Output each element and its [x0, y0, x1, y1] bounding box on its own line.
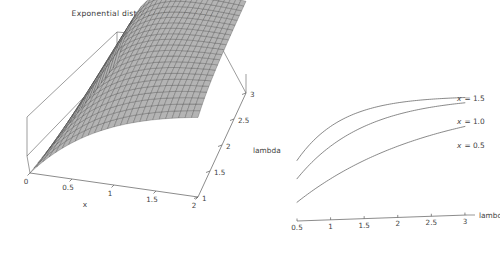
- figure-canvas: Exponential distribution: cumulative: [0, 0, 500, 263]
- surface-plot-panel: Exponential distribution: cumulative: [0, 0, 290, 263]
- x-tick-mark: [28, 173, 31, 176]
- cdf-curve-group: [297, 98, 465, 203]
- series-label-x-1-0: x= 1.0: [456, 117, 485, 126]
- cdf-tick-label: 1.5: [358, 221, 369, 230]
- series-label-x-1-5: x= 1.5: [456, 94, 485, 103]
- lambda-tick-label: 1.5: [214, 168, 225, 177]
- x-tick-label: 0: [24, 177, 29, 186]
- lambda-tick-label: 1: [202, 194, 207, 203]
- lambda-axis-label: lambda: [479, 211, 500, 220]
- cdf-tick-label: 2.5: [426, 218, 437, 227]
- x-tick-mark: [112, 185, 115, 188]
- cdf-tick-label: 0.5: [291, 223, 302, 232]
- cdf-plot-svg: x= 1.5 x= 1.0 x= 0.5 lambda 0.511.522.53: [285, 0, 500, 263]
- x-axis-ticks: 00.511.52: [24, 173, 198, 210]
- cdf-axis-ticks: 0.511.522.53: [291, 213, 467, 232]
- x-axis-label: x: [83, 200, 88, 209]
- lambda-axis-label: lambda: [253, 146, 281, 155]
- lambda-tick-label: 2.5: [238, 116, 249, 125]
- surface-mesh: [30, 0, 246, 173]
- cdf-lambda-axis: [297, 215, 475, 221]
- lambda-tick-label: 2: [226, 142, 231, 151]
- series-label-x-0-5: x= 0.5: [456, 141, 485, 150]
- x-tick-label: 1: [108, 189, 113, 198]
- x-tick-mark: [154, 191, 157, 194]
- lambda-axis-line: [297, 215, 467, 221]
- cdf-tick-label: 2: [395, 219, 400, 228]
- cdf-plot-panel: x= 1.5 x= 1.0 x= 0.5 lambda 0.511.522.53: [285, 0, 500, 263]
- surface-plot-svg: Exponential distribution: cumulative: [0, 0, 290, 263]
- lambda-tick-label: 3: [250, 90, 255, 99]
- cdf-curve-2: [297, 126, 465, 202]
- x-tick-label: 0.5: [62, 183, 73, 192]
- cdf-tick-label: 3: [463, 217, 468, 226]
- x-tick-label: 2: [192, 201, 197, 210]
- x-tick-mark: [70, 179, 73, 182]
- x-tick-label: 1.5: [146, 195, 157, 204]
- cdf-curve-0: [297, 98, 465, 161]
- cdf-tick-label: 1: [328, 222, 333, 231]
- cdf-series-labels: x= 1.5 x= 1.0 x= 0.5: [456, 94, 485, 150]
- cdf-curve-1: [297, 103, 465, 179]
